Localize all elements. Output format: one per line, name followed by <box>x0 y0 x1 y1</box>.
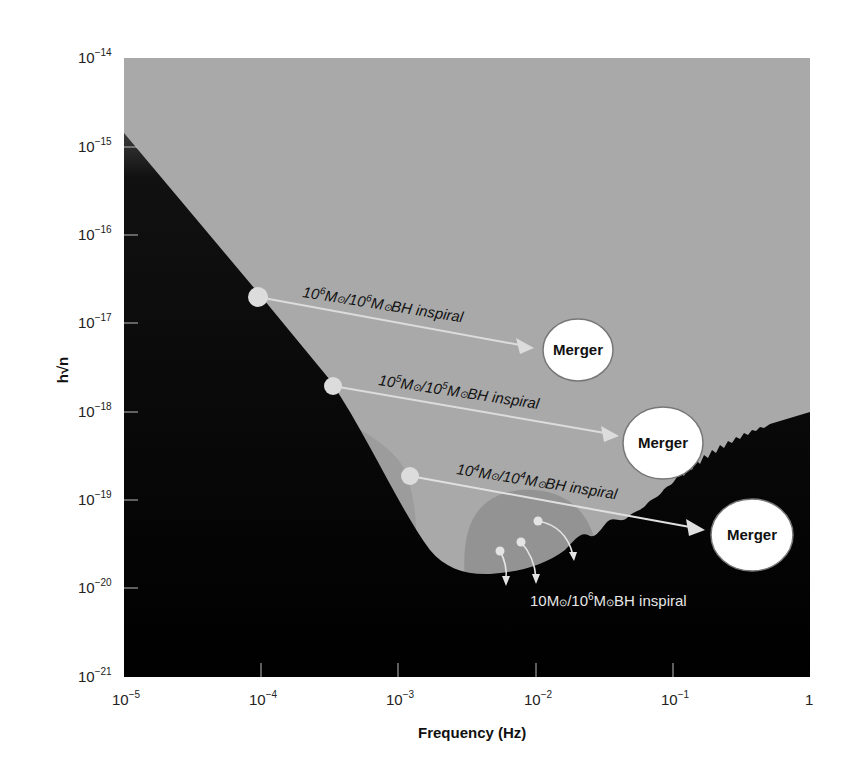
x-tick-label: 10−5 <box>112 689 141 708</box>
start-dot <box>517 538 526 547</box>
x-tick-label: 10−2 <box>524 689 553 708</box>
x-tick-label: 10−3 <box>386 689 415 708</box>
x-axis-title: Frequency (Hz) <box>418 724 526 741</box>
start-dot <box>401 467 419 485</box>
start-dot <box>324 377 342 395</box>
y-tick-label: 10−16 <box>78 224 112 243</box>
merger-label-2: Merger <box>638 434 688 451</box>
y-tick-label: 10−19 <box>78 489 112 508</box>
merger-label-3: Merger <box>727 526 777 543</box>
y-tick-label: 10−14 <box>78 47 112 66</box>
start-dot <box>496 547 505 556</box>
x-tick-label: 1 <box>805 691 813 708</box>
y-tick-label: 10−17 <box>78 312 112 331</box>
y-tick-label: 10−21 <box>78 666 112 685</box>
merger-label-1: Merger <box>553 341 603 358</box>
gw-sensitivity-chart: 10−14 10−15 10−16 10−17 10−18 10−19 10−2… <box>0 0 851 779</box>
x-tick-label: 10−4 <box>249 689 278 708</box>
y-tick-label: 10−20 <box>78 577 112 596</box>
y-tick-label: 10−15 <box>78 136 112 155</box>
y-tick-labels: 10−14 10−15 10−16 10−17 10−18 10−19 10−2… <box>78 47 112 685</box>
merger-1: Merger <box>543 319 613 381</box>
x-tick-labels: 10−5 10−4 10−3 10−2 10−1 1 <box>112 689 813 708</box>
y-axis-title: h√n <box>54 357 71 384</box>
x-tick-label: 10−1 <box>661 689 690 708</box>
start-dot <box>534 517 543 526</box>
start-dot <box>248 287 268 307</box>
merger-2: Merger <box>623 407 703 479</box>
y-tick-label: 10−18 <box>78 401 112 420</box>
merger-3: Merger <box>711 499 793 571</box>
